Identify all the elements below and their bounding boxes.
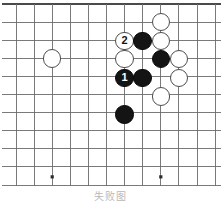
figure-caption: 失败图 <box>0 188 221 203</box>
go-problem-figure: 21 失败图 <box>0 0 221 203</box>
star-point-right <box>159 175 162 178</box>
go-board-grid <box>0 0 221 186</box>
black-stone-upper[interactable] <box>133 32 151 50</box>
white-stone-lower-right[interactable] <box>152 87 170 105</box>
stone-move-number: 2 <box>122 35 128 46</box>
white-stone-under-marker[interactable] <box>115 50 133 68</box>
black-stone-bottom[interactable] <box>115 105 133 123</box>
white-stone-numbered-2[interactable]: 2 <box>115 32 133 50</box>
black-stone-numbered-1[interactable]: 1 <box>115 69 133 87</box>
go-board[interactable] <box>0 0 221 186</box>
star-point-left <box>51 175 54 178</box>
stone-move-number: 1 <box>122 72 128 83</box>
white-stone-left-side[interactable] <box>43 49 61 67</box>
